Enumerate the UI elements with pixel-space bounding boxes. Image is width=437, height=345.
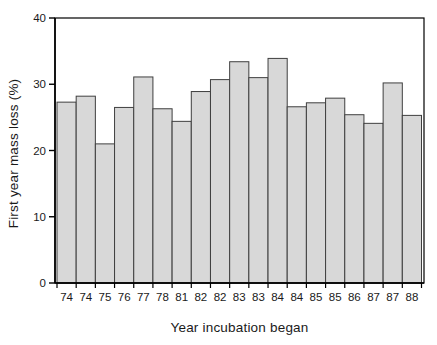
bar bbox=[115, 107, 134, 283]
x-tick-label: 87 bbox=[386, 291, 399, 303]
bar bbox=[95, 144, 114, 283]
bar bbox=[76, 96, 95, 283]
y-tick-label: 0 bbox=[40, 277, 46, 289]
x-tick-label: 83 bbox=[252, 291, 265, 303]
x-tick-label: 77 bbox=[137, 291, 150, 303]
x-tick-label: 85 bbox=[310, 291, 323, 303]
bar bbox=[306, 103, 325, 283]
y-tick-label: 20 bbox=[33, 145, 46, 157]
bar bbox=[345, 115, 364, 283]
x-tick-label: 81 bbox=[175, 291, 188, 303]
y-axis-title: First year mass loss (%) bbox=[6, 54, 23, 254]
bar bbox=[402, 115, 421, 283]
x-tick-label: 84 bbox=[271, 291, 284, 303]
bar bbox=[268, 58, 287, 283]
bar bbox=[153, 109, 172, 283]
x-tick-label: 85 bbox=[329, 291, 342, 303]
x-tick-label: 83 bbox=[233, 291, 246, 303]
chart-plot-area: 0102030407474757677788182828383848485858… bbox=[0, 0, 437, 345]
bar bbox=[210, 80, 229, 283]
bar bbox=[172, 121, 191, 283]
bar bbox=[191, 92, 210, 283]
bar-chart-figure: 0102030407474757677788182828383848485858… bbox=[0, 0, 437, 345]
y-tick-label: 10 bbox=[33, 211, 46, 223]
bar bbox=[287, 107, 306, 283]
bar bbox=[230, 62, 249, 283]
x-tick-label: 82 bbox=[214, 291, 227, 303]
x-tick-label: 82 bbox=[194, 291, 207, 303]
x-axis-title: Year incubation began bbox=[129, 320, 350, 335]
x-tick-label: 86 bbox=[348, 291, 361, 303]
x-tick-label: 78 bbox=[156, 291, 169, 303]
x-tick-label: 76 bbox=[118, 291, 131, 303]
x-tick-label: 74 bbox=[79, 291, 92, 303]
bar bbox=[57, 102, 76, 283]
x-tick-label: 87 bbox=[367, 291, 380, 303]
x-tick-label: 88 bbox=[406, 291, 419, 303]
bar bbox=[364, 123, 383, 283]
bar bbox=[383, 83, 402, 283]
y-tick-label: 30 bbox=[33, 78, 46, 90]
bar bbox=[249, 78, 268, 283]
x-tick-label: 74 bbox=[60, 291, 73, 303]
bar bbox=[134, 77, 153, 283]
x-tick-label: 84 bbox=[290, 291, 303, 303]
x-tick-label: 75 bbox=[99, 291, 112, 303]
bar bbox=[326, 98, 345, 283]
y-tick-label: 40 bbox=[33, 12, 46, 24]
